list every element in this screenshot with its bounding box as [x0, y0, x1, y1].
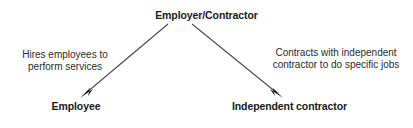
arrowhead-to-employee [80, 88, 93, 98]
edge-caption-contracts-with-independent: Contracts with independent contractor to… [262, 47, 410, 72]
diagram-canvas: Employer/Contractor Hires employees to p… [0, 0, 413, 128]
edge-caption-line-1: Contracts with independent [262, 47, 410, 59]
edge-caption-line-2: perform services [6, 61, 124, 73]
node-independent-contractor: Independent contractor [212, 100, 367, 112]
edge-caption-line-2: contractor to do specific jobs [262, 59, 410, 71]
edge-caption-hires-employees: Hires employees to perform services [6, 49, 124, 74]
edge-caption-line-1: Hires employees to [6, 49, 124, 61]
node-employer-contractor: Employer/Contractor [0, 9, 413, 21]
node-employee: Employee [12, 100, 140, 112]
